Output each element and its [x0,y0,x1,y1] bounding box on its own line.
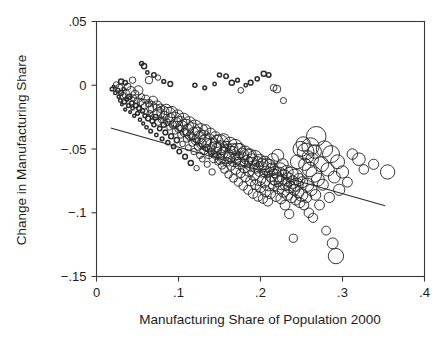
x-axis-title: Manufacturing Share of Population 2000 [139,312,381,327]
y-tick-label: −.1 [68,205,86,220]
y-tick-label: 0 [79,78,86,93]
scatter-plot-figure: 0.1.2.3.4.050−.05−.1−.15 Manufacturing S… [0,0,441,345]
x-tick-label: .3 [337,285,348,300]
y-axis-title: Change in Manufacturing Share [14,55,29,246]
x-tick-label: .2 [255,285,266,300]
x-tick-label: .1 [173,285,184,300]
y-tick-label: −.15 [61,269,87,284]
x-tick-label: .4 [419,285,430,300]
figure-background [0,0,441,345]
y-tick-label: −.05 [61,142,87,157]
x-tick-label: 0 [93,285,100,300]
y-tick-label: .05 [68,14,86,29]
